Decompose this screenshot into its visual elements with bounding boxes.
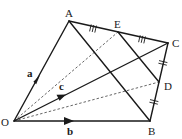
dashed-line-OD [14, 82, 159, 121]
line-OA [14, 21, 69, 121]
vector-diagram: A E C D B O a b c [0, 0, 182, 139]
arrow-b-icon [64, 117, 74, 125]
point-label-B: B [148, 125, 155, 137]
vector-label-a: a [27, 67, 33, 79]
point-label-O: O [1, 116, 9, 128]
vector-label-c: c [59, 80, 64, 92]
point-label-E: E [114, 18, 121, 30]
triple-tick-EC-icon [139, 35, 146, 43]
point-label-C: C [172, 37, 179, 49]
point-label-D: D [164, 80, 172, 92]
vector-label-b: b [67, 125, 73, 137]
arrow-c-icon [57, 95, 67, 101]
point-label-A: A [65, 7, 73, 19]
